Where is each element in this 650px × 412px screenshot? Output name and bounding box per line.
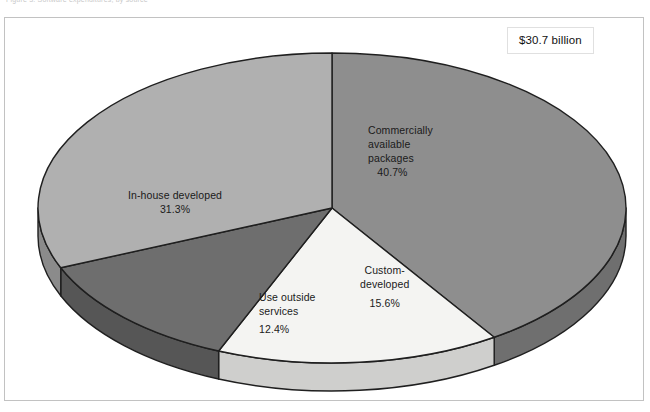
total-value-callout: $30.7 billion [507, 27, 594, 54]
slice-label-line: In-house developed [128, 189, 222, 201]
slice-label-line: developed [360, 278, 409, 290]
slice-percent: 40.7% [368, 165, 433, 179]
slice-percent: 15.6% [360, 296, 409, 310]
slice-label-line: Custom- [365, 264, 405, 276]
slice-label-line: Use outside [259, 291, 316, 303]
slice-label-use-outside-services: Use outside services 12.4% [259, 290, 316, 336]
slice-label-line: available [368, 138, 410, 150]
slice-label-commercially-available-packages: Commercially available packages 40.7% [368, 123, 433, 179]
slice-percent: 31.3% [128, 202, 222, 216]
pie-top-faces [38, 53, 626, 363]
slice-label-line: Commercially [368, 124, 433, 136]
slice-label-line: packages [368, 152, 414, 164]
pie-chart [0, 0, 650, 412]
slice-label-in-house-developed: In-house developed 31.3% [128, 188, 222, 216]
slice-label-line: services [259, 305, 298, 317]
slice-percent: 12.4% [259, 322, 316, 336]
slice-label-custom-developed: Custom- developed 15.6% [360, 263, 409, 310]
